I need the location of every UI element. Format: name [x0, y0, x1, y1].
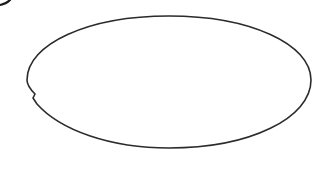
diagram-canvas	[0, 0, 313, 171]
main-ellipse	[27, 16, 311, 148]
